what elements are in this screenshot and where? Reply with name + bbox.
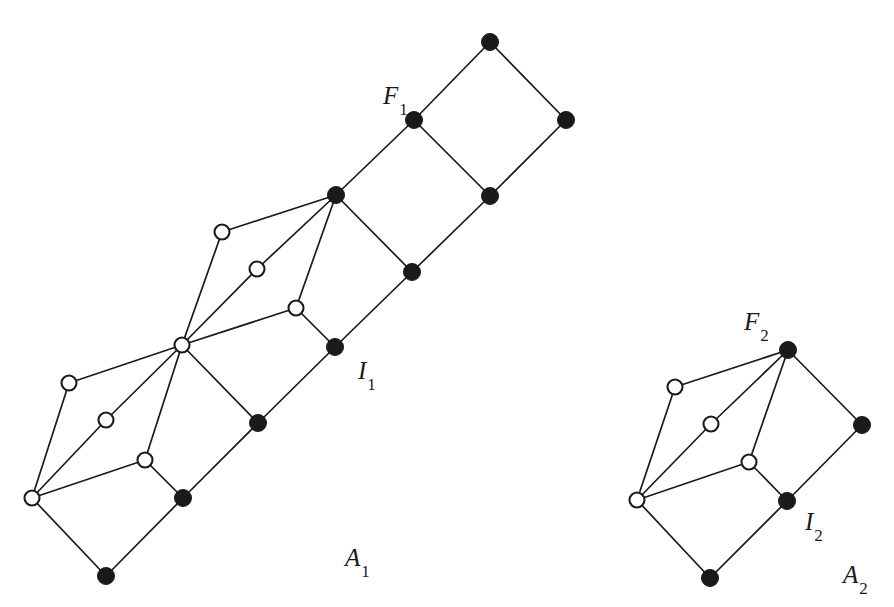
graph-edge: [32, 383, 69, 498]
graph-edge: [675, 350, 788, 387]
graph-edge: [414, 120, 490, 196]
graph-node-open[interactable]: [25, 491, 40, 506]
edges-layer: [32, 42, 862, 578]
graph-node-filled[interactable]: [702, 570, 719, 587]
graph-node-open[interactable]: [138, 453, 153, 468]
graph-edge: [69, 345, 182, 383]
node-label-f1: F1: [382, 82, 408, 119]
graph-node-open[interactable]: [630, 493, 645, 508]
graph-node-open[interactable]: [742, 455, 757, 470]
graph-edge: [182, 345, 258, 423]
graph-node-filled[interactable]: [250, 415, 267, 432]
graph-node-filled[interactable]: [175, 490, 192, 507]
graph-node-filled[interactable]: [406, 112, 423, 129]
graph-edge: [412, 196, 490, 272]
graph-node-filled[interactable]: [327, 339, 344, 356]
graph-node-filled[interactable]: [558, 112, 575, 129]
graph-edge: [182, 232, 222, 345]
graph-edge: [787, 425, 862, 501]
graph-edge: [32, 498, 106, 576]
graph-edge: [222, 195, 336, 232]
graph-edge: [106, 498, 183, 576]
graph-node-filled[interactable]: [328, 187, 345, 204]
graph-edge: [637, 462, 749, 500]
graph-edge: [711, 350, 788, 424]
graph-edge: [788, 350, 862, 425]
graph-edge: [258, 347, 335, 423]
graph-edge: [257, 195, 336, 269]
graph-edge: [749, 350, 788, 462]
graph-node-filled[interactable]: [482, 34, 499, 51]
graph-diagram-svg: F1I1A1F2I2A2: [0, 0, 894, 607]
graph-edge: [336, 120, 414, 195]
graph-edge: [637, 424, 711, 500]
graph-node-open[interactable]: [250, 262, 265, 277]
graph-node-open[interactable]: [668, 380, 683, 395]
graph-edge: [296, 195, 336, 308]
graph-node-open[interactable]: [215, 225, 230, 240]
graph-node-open[interactable]: [175, 338, 190, 353]
node-label-f2: F2: [743, 308, 769, 345]
graph-edge: [490, 42, 566, 120]
labels-layer: F1I1A1F2I2A2: [343, 82, 868, 598]
graph-edge: [637, 500, 710, 578]
graph-node-filled[interactable]: [98, 568, 115, 585]
graph-node-open[interactable]: [99, 413, 114, 428]
node-label-a2: A2: [841, 561, 868, 598]
graph-edge: [490, 120, 566, 196]
graph-edge: [336, 195, 412, 272]
graph-node-filled[interactable]: [482, 188, 499, 205]
graph-edge: [414, 42, 490, 120]
graph-node-filled[interactable]: [854, 417, 871, 434]
graph-node-open[interactable]: [704, 417, 719, 432]
graph-node-filled[interactable]: [779, 493, 796, 510]
graph-edge: [637, 387, 675, 500]
diagram-canvas: F1I1A1F2I2A2: [0, 0, 894, 607]
node-label-i2: I2: [804, 508, 823, 545]
graph-node-open[interactable]: [289, 301, 304, 316]
graph-node-filled[interactable]: [780, 342, 797, 359]
graph-node-open[interactable]: [62, 376, 77, 391]
node-label-i1: I1: [357, 357, 376, 394]
graph-node-filled[interactable]: [404, 264, 421, 281]
graph-edge: [183, 423, 258, 498]
graph-edge: [335, 272, 412, 347]
graph-edge: [710, 501, 787, 578]
node-label-a1: A1: [343, 544, 370, 581]
